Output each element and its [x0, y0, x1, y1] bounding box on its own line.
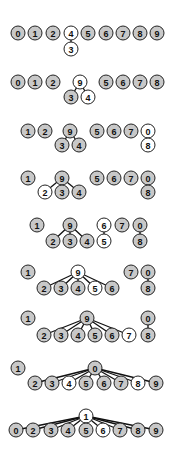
node-7: 7	[113, 423, 127, 437]
node-label: 9	[153, 379, 158, 389]
node-label: 6	[101, 221, 106, 231]
node-label: 1	[32, 29, 37, 39]
node-6: 6	[96, 423, 110, 437]
node-label: 7	[117, 426, 122, 436]
node-6: 6	[105, 328, 119, 342]
node-label: 2	[50, 29, 55, 39]
node-label: 6	[111, 174, 116, 184]
node-label: 8	[145, 331, 150, 341]
node-label: 7	[137, 78, 142, 88]
node-4: 4	[71, 328, 85, 342]
step-6: 1923456708	[21, 265, 155, 295]
node-0: 0	[141, 171, 155, 185]
node-label: 5	[92, 331, 97, 341]
node-label: 0	[137, 221, 142, 231]
node-label: 3	[67, 237, 72, 247]
node-label: 4	[76, 188, 81, 198]
node-3: 3	[55, 185, 69, 199]
step-9: 1023456789	[9, 409, 163, 437]
node-label: 5	[92, 284, 97, 294]
node-1: 1	[28, 75, 42, 89]
node-label: 9	[84, 314, 89, 324]
node-label: 8	[137, 237, 142, 247]
node-label: 6	[109, 284, 114, 294]
node-label: 4	[66, 379, 71, 389]
node-7: 7	[115, 218, 129, 232]
node-label: 3	[58, 284, 63, 294]
node-label: 4	[68, 29, 73, 39]
node-label: 1	[25, 174, 30, 184]
node-label: 9	[75, 268, 80, 278]
node-6: 6	[99, 26, 113, 40]
node-2: 2	[37, 281, 51, 295]
node-label: 2	[42, 188, 47, 198]
node-4: 4	[71, 281, 85, 295]
node-8: 8	[131, 423, 145, 437]
node-label: 1	[25, 127, 30, 137]
node-0: 0	[9, 423, 23, 437]
node-3: 3	[63, 234, 77, 248]
node-7: 7	[124, 124, 138, 138]
node-label: 5	[101, 237, 106, 247]
node-4: 4	[72, 138, 86, 152]
node-5: 5	[88, 328, 102, 342]
node-1: 1	[30, 218, 44, 232]
node-label: 8	[135, 426, 140, 436]
node-9: 9	[73, 75, 87, 89]
node-2: 2	[37, 328, 51, 342]
step-5: 1923465708	[30, 218, 147, 248]
node-label: 4	[76, 141, 81, 151]
node-6: 6	[107, 171, 121, 185]
node-3: 3	[64, 42, 78, 56]
node-8: 8	[141, 138, 155, 152]
node-2: 2	[46, 26, 60, 40]
node-label: 1	[32, 78, 37, 88]
node-label: 9	[67, 127, 72, 137]
node-label: 0	[145, 314, 150, 324]
node-7: 7	[122, 328, 136, 342]
node-4: 4	[61, 423, 75, 437]
node-label: 0	[145, 127, 150, 137]
node-8: 8	[150, 75, 164, 89]
node-label: 6	[103, 29, 108, 39]
node-label: 9	[77, 78, 82, 88]
node-5: 5	[90, 124, 104, 138]
node-1: 1	[28, 26, 42, 40]
step-8: 1023456789	[11, 361, 163, 390]
node-8: 8	[141, 328, 155, 342]
node-5: 5	[88, 281, 102, 295]
node-1: 1	[21, 265, 35, 279]
node-label: 0	[15, 29, 20, 39]
node-label: 8	[145, 141, 150, 151]
node-9: 9	[63, 124, 77, 138]
node-6: 6	[105, 281, 119, 295]
node-5: 5	[97, 234, 111, 248]
node-label: 5	[85, 29, 90, 39]
node-5: 5	[90, 171, 104, 185]
node-label: 8	[145, 188, 150, 198]
node-9: 9	[80, 311, 94, 325]
node-label: 5	[83, 426, 88, 436]
node-label: 2	[41, 331, 46, 341]
node-label: 3	[49, 379, 54, 389]
node-label: 6	[100, 426, 105, 436]
diagram-canvas: 0124356789012934567812934567081923456708…	[0, 0, 174, 462]
node-label: 3	[68, 93, 73, 103]
node-label: 2	[42, 127, 47, 137]
node-label: 5	[103, 78, 108, 88]
node-2: 2	[28, 376, 42, 390]
node-label: 6	[101, 379, 106, 389]
step-3: 1293456708	[21, 124, 155, 152]
node-9: 9	[55, 171, 69, 185]
node-7: 7	[114, 376, 128, 390]
node-7: 7	[124, 265, 138, 279]
node-label: 0	[15, 78, 20, 88]
node-7: 7	[116, 26, 130, 40]
node-1: 1	[79, 409, 93, 423]
node-0: 0	[88, 361, 102, 375]
node-1: 1	[21, 171, 35, 185]
node-label: 7	[128, 127, 133, 137]
node-label: 4	[84, 237, 89, 247]
node-label: 1	[25, 314, 30, 324]
node-label: 8	[135, 379, 140, 389]
